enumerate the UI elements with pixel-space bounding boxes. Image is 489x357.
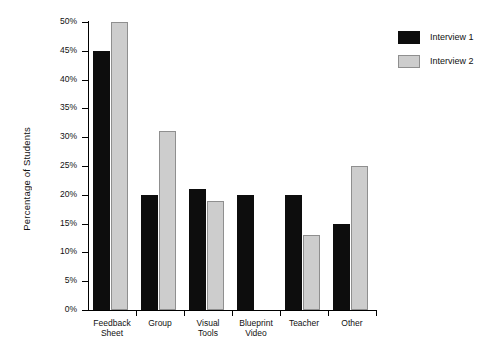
y-tick-label: 15% xyxy=(60,219,77,228)
x-tick-mark xyxy=(232,311,233,316)
bar-0-5 xyxy=(333,224,350,310)
y-axis-title-text: Percentage of Students xyxy=(21,127,32,231)
bar-1-1 xyxy=(159,131,176,310)
x-tick-mark xyxy=(376,311,377,316)
legend: Interview 1Interview 2 xyxy=(398,27,484,75)
bar-1-5 xyxy=(351,166,368,310)
bar-0-2 xyxy=(189,189,206,310)
x-tick-mark xyxy=(136,311,137,316)
legend-swatch-1 xyxy=(398,55,420,68)
y-tick-label: 35% xyxy=(60,103,77,112)
x-tick-mark xyxy=(280,311,281,316)
legend-item-0[interactable]: Interview 1 xyxy=(398,27,484,47)
bar-0-1 xyxy=(141,195,158,310)
y-tick-label: 45% xyxy=(60,46,77,55)
legend-item-1[interactable]: Interview 2 xyxy=(398,51,484,71)
bar-1-4 xyxy=(303,235,320,310)
legend-label-0: Interview 1 xyxy=(430,32,474,42)
x-tick-mark xyxy=(184,311,185,316)
y-tick-label: 40% xyxy=(60,75,77,84)
y-tick-label: 50% xyxy=(60,17,77,26)
bar-1-2 xyxy=(207,201,224,310)
y-tick-label: 0% xyxy=(65,305,77,314)
legend-swatch-0 xyxy=(398,31,420,44)
x-category-label: Other xyxy=(322,318,382,328)
y-tick-label: 10% xyxy=(60,247,77,256)
bar-chart-figure: Percentage of Students 0%5%10%15%20%25%3… xyxy=(0,0,489,357)
y-tick-label: 20% xyxy=(60,190,77,199)
y-tick-label: 25% xyxy=(60,161,77,170)
bar-0-3 xyxy=(237,195,254,310)
x-tick-mark xyxy=(328,311,329,316)
bar-0-4 xyxy=(285,195,302,310)
y-axis-title: Percentage of Students xyxy=(17,0,35,357)
plot-area xyxy=(88,22,376,310)
bar-1-0 xyxy=(111,22,128,310)
bar-0-0 xyxy=(93,51,110,310)
legend-label-1: Interview 2 xyxy=(430,56,474,66)
y-tick-label: 30% xyxy=(60,132,77,141)
y-tick-label: 5% xyxy=(65,276,77,285)
y-tick-mark xyxy=(82,310,88,311)
